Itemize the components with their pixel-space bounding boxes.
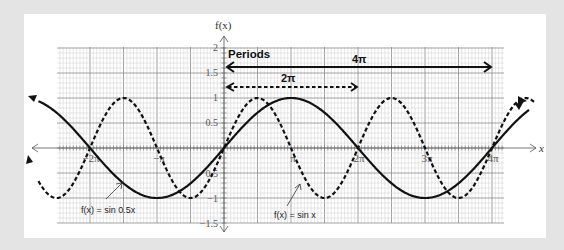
y-tick-1: 1: [213, 92, 218, 103]
sine-period-chart: f(x) x 2 1.5 1 0.5 0.5 −1 −1.5 −2π −π π …: [0, 0, 564, 250]
y-tick-neg-1-5: −1.5: [200, 218, 218, 229]
y-tick-neg-1: −1: [207, 193, 218, 204]
period-4pi-label: 4π: [352, 53, 367, 65]
curve-sin-x-left-arrowhead-icon: [26, 155, 33, 164]
y-tick-1-5: 1.5: [206, 67, 219, 78]
legend-sin-x-pointer: [287, 184, 300, 206]
legend-sin-0-5x-pointer: [106, 183, 122, 199]
chart-stage: f(x) x 2 1.5 1 0.5 0.5 −1 −1.5 −2π −π π …: [0, 0, 564, 250]
curve-sin-0-5x-left-arrowhead-icon: [28, 95, 37, 102]
y-tick-0-5: 0.5: [206, 117, 219, 128]
y-tick-2: 2: [213, 42, 218, 53]
legend-sin-0-5x: f(x) = sin 0.5x: [81, 205, 136, 215]
periods-label: Periods: [228, 48, 270, 60]
axes: [32, 36, 536, 232]
x-axis-label: x: [538, 142, 544, 154]
legend-sin-x: f(x) = sin x: [274, 210, 316, 220]
y-axis-label: f(x): [215, 19, 232, 32]
period-2pi-label: 2π: [281, 72, 296, 84]
